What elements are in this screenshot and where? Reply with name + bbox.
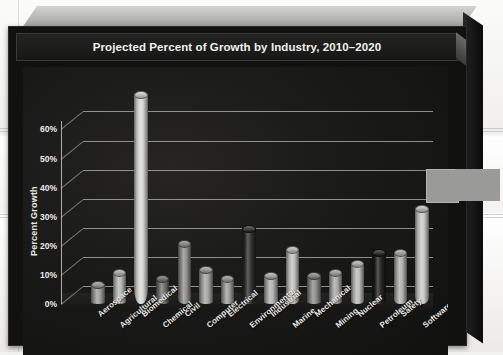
bar-biomedical[interactable]: [134, 91, 147, 304]
slab-top-face: [22, 6, 477, 28]
chart-slab-3d: Projected Percent of Growth by Industry,…: [8, 6, 485, 346]
gridline-depth: [61, 257, 84, 276]
selection-artifact-block-outer: [455, 169, 500, 201]
gridline-depth: [61, 228, 84, 247]
y-axis-tick-label: 40%: [23, 183, 57, 193]
bar-body: [199, 269, 212, 304]
bar-cap: [394, 249, 407, 257]
slab-front-face: Projected Percent of Growth by Industry,…: [8, 26, 467, 346]
bar-body: [415, 208, 428, 304]
gridline-depth: [61, 141, 84, 160]
gridline-depth: [61, 199, 84, 218]
page-title: Projected Percent of Growth by Industry,…: [93, 41, 382, 53]
bar-safety[interactable]: [394, 249, 407, 304]
bar-cap: [264, 272, 277, 280]
bar-civil[interactable]: [178, 240, 191, 304]
bar-cap: [156, 275, 169, 283]
bar-software[interactable]: [415, 205, 428, 304]
plot-area: Percent Growth 60%50%40%30%20%10%0% Aero…: [23, 67, 448, 355]
bar-body: [351, 263, 364, 304]
bar-cap: [286, 246, 299, 254]
bar-cap: [178, 240, 191, 248]
y-axis-tick-label: 60%: [23, 124, 57, 134]
bar-body: [134, 94, 147, 304]
gridline-depth: [61, 170, 84, 189]
bar-cap: [307, 272, 320, 280]
chart-title-bar: Projected Percent of Growth by Industry,…: [16, 33, 458, 61]
bar-body: [394, 252, 407, 304]
y-axis-tick-label: 50%: [23, 154, 57, 164]
bar-cap: [372, 249, 385, 257]
gridline-depth: [61, 112, 84, 131]
y-axis-tick-label: 20%: [23, 241, 57, 251]
bar-cap: [415, 205, 428, 213]
y-axis-tick-label: 30%: [23, 212, 57, 222]
title-bar-edge: [456, 32, 466, 65]
bar-aerospace[interactable]: [91, 281, 104, 304]
y-axis-tick-label: 10%: [23, 270, 57, 280]
bar-mechanical[interactable]: [307, 272, 320, 304]
y-axis-tick-label: 0%: [23, 299, 57, 309]
bar-cap: [113, 269, 126, 277]
bar-cap: [91, 281, 104, 289]
y-axis-line: [61, 121, 62, 304]
bar-body: [178, 243, 191, 304]
bar-nuclear[interactable]: [351, 260, 364, 304]
bar-computer[interactable]: [199, 266, 212, 304]
bar-cap: [199, 266, 212, 274]
bar-cap: [221, 275, 234, 283]
